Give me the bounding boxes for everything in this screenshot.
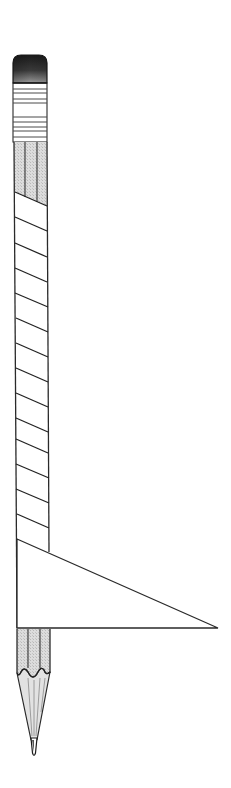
lead-tip <box>31 738 37 756</box>
right-triangle <box>17 539 218 628</box>
pencil-triangle-diagram <box>0 0 231 788</box>
diagonal-bands <box>15 192 49 528</box>
eraser <box>13 55 47 83</box>
ferrule <box>13 83 47 142</box>
upper-wood <box>14 142 47 206</box>
pencil-cone <box>17 668 50 740</box>
